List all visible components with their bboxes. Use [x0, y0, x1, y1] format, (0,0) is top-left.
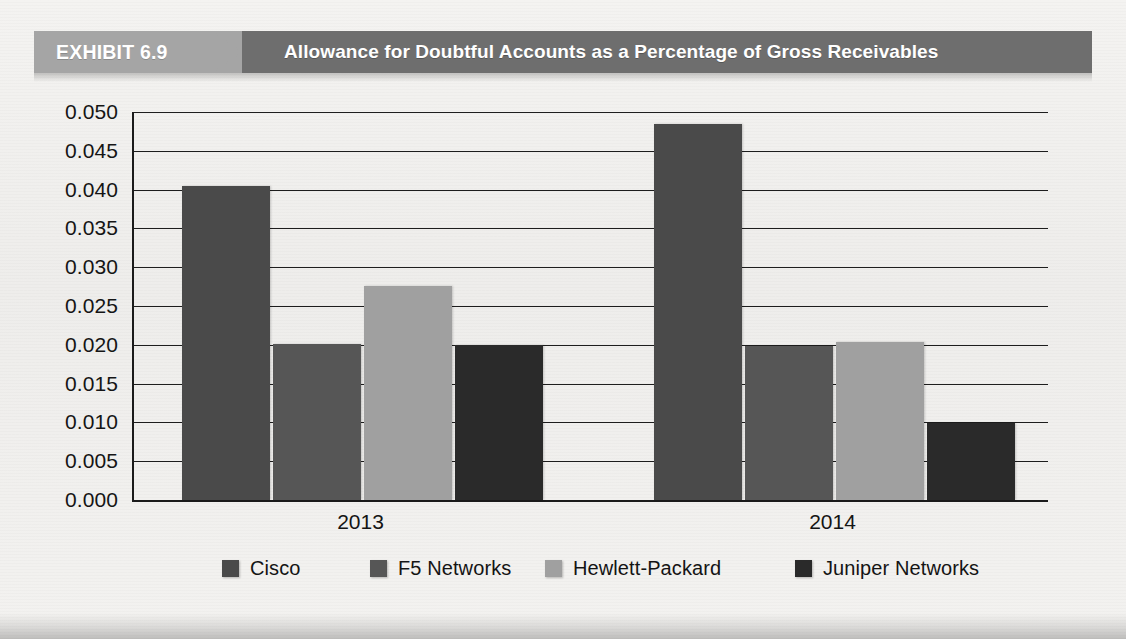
bar-chart: 0.0500.0450.0400.0350.0300.0250.0200.015…	[0, 86, 1126, 526]
exhibit-page: EXHIBIT 6.9 Allowance for Doubtful Accou…	[0, 0, 1126, 639]
legend-label: Hewlett-Packard	[573, 557, 721, 580]
banner-chevron-icon	[212, 31, 242, 73]
legend-swatch-icon	[795, 560, 812, 577]
gridline	[134, 306, 1048, 307]
bar-hewlett-packard-2014	[836, 342, 924, 500]
legend-swatch-icon	[222, 560, 239, 577]
bar-juniper-networks-2013	[455, 345, 543, 500]
y-axis-tick-label: 0.015	[14, 372, 118, 396]
y-axis-tick-labels: 0.0500.0450.0400.0350.0300.0250.0200.015…	[14, 112, 118, 500]
bar-hewlett-packard-2013	[364, 286, 452, 500]
bar-juniper-networks-2014	[927, 423, 1015, 500]
x-axis-label-2014: 2014	[809, 510, 856, 534]
exhibit-number-label: EXHIBIT 6.9	[56, 41, 168, 64]
plot-area	[132, 112, 1048, 502]
gridline	[134, 151, 1048, 152]
y-axis-tick-label: 0.005	[14, 449, 118, 473]
exhibit-banner: EXHIBIT 6.9 Allowance for Doubtful Accou…	[34, 31, 1092, 73]
legend-label: F5 Networks	[398, 557, 511, 580]
exhibit-number-tab: EXHIBIT 6.9	[34, 31, 212, 73]
y-axis-tick-label: 0.000	[14, 488, 118, 512]
exhibit-title-bar: Allowance for Doubtful Accounts as a Per…	[242, 31, 1092, 73]
y-axis-tick-label: 0.010	[14, 410, 118, 434]
bar-cisco-2014	[654, 124, 742, 500]
legend-swatch-icon	[545, 560, 562, 577]
legend-item-cisco[interactable]: Cisco	[222, 557, 301, 580]
gridline	[134, 190, 1048, 191]
x-axis-category-labels: 20132014	[132, 506, 1046, 540]
y-axis-tick-label: 0.045	[14, 139, 118, 163]
legend-item-f5-networks[interactable]: F5 Networks	[370, 557, 511, 580]
x-axis-label-2013: 2013	[337, 510, 384, 534]
bar-f5-networks-2014	[745, 346, 833, 500]
y-axis-tick-label: 0.030	[14, 255, 118, 279]
legend-swatch-icon	[370, 560, 387, 577]
y-axis-tick-label: 0.035	[14, 216, 118, 240]
gridline	[134, 228, 1048, 229]
bar-cisco-2013	[182, 186, 270, 500]
legend-item-hewlett-packard[interactable]: Hewlett-Packard	[545, 557, 721, 580]
legend-label: Cisco	[250, 557, 301, 580]
gridline	[134, 267, 1048, 268]
legend-item-juniper-networks[interactable]: Juniper Networks	[795, 557, 979, 580]
y-axis-tick-label: 0.040	[14, 178, 118, 202]
legend-label: Juniper Networks	[823, 557, 979, 580]
bar-f5-networks-2013	[273, 344, 361, 500]
chart-legend: CiscoF5 NetworksHewlett-PackardJuniper N…	[0, 553, 1126, 593]
y-axis-tick-label: 0.020	[14, 333, 118, 357]
exhibit-title: Allowance for Doubtful Accounts as a Per…	[284, 41, 938, 63]
gridline	[134, 112, 1048, 113]
y-axis-tick-label: 0.050	[14, 100, 118, 124]
y-axis-tick-label: 0.025	[14, 294, 118, 318]
